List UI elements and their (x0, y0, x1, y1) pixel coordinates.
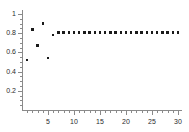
data-point (114, 31, 117, 34)
data-point (57, 31, 60, 34)
data-point (130, 31, 133, 34)
y-tick (18, 72, 22, 73)
y-minor-tick (20, 57, 22, 58)
x-minor-tick (84, 111, 85, 113)
data-point (172, 31, 175, 34)
data-point (125, 31, 128, 34)
x-tick (74, 111, 75, 115)
x-minor-tick (136, 111, 137, 113)
x-tick-label: 5 (38, 118, 58, 126)
x-minor-tick (116, 111, 117, 113)
data-point (156, 31, 159, 34)
data-point (42, 22, 45, 25)
x-minor-tick (79, 111, 80, 113)
x-minor-tick (110, 111, 111, 113)
y-minor-tick (20, 67, 22, 68)
x-tick-label: 30 (168, 118, 188, 126)
data-point (104, 31, 107, 34)
x-minor-tick (157, 111, 158, 113)
x-tick-label: 15 (90, 118, 110, 126)
x-minor-tick (43, 111, 44, 113)
data-point (161, 31, 164, 34)
x-minor-tick (95, 111, 96, 113)
y-tick (18, 91, 22, 92)
y-minor-tick (20, 96, 22, 97)
x-minor-tick (53, 111, 54, 113)
x-minor-tick (69, 111, 70, 113)
x-minor-tick (38, 111, 39, 113)
data-point (109, 31, 112, 34)
y-minor-tick (20, 38, 22, 39)
y-minor-tick (20, 28, 22, 29)
data-point (94, 31, 97, 34)
x-tick (126, 111, 127, 115)
y-tick-label: 1 (0, 10, 16, 18)
scatter-chart: 0.20.40.60.81 51015202530 (0, 0, 189, 132)
data-point (52, 34, 55, 37)
y-tick-label: 0.2 (0, 87, 16, 95)
y-minor-tick (20, 43, 22, 44)
x-minor-tick (131, 111, 132, 113)
x-minor-tick (64, 111, 65, 113)
data-point (31, 28, 34, 31)
y-minor-tick (20, 62, 22, 63)
y-tick-label: 0.4 (0, 68, 16, 76)
x-minor-tick (32, 111, 33, 113)
data-point (140, 31, 143, 34)
x-tick-label: 10 (64, 118, 84, 126)
y-minor-tick (20, 48, 22, 49)
y-minor-tick (20, 100, 22, 101)
y-minor-tick (20, 19, 22, 20)
x-minor-tick (147, 111, 148, 113)
data-point (62, 31, 65, 34)
x-minor-tick (162, 111, 163, 113)
y-minor-tick (20, 76, 22, 77)
data-point (68, 31, 71, 34)
data-point (78, 31, 81, 34)
data-point (177, 31, 180, 34)
data-point (83, 31, 86, 34)
data-point (120, 31, 123, 34)
x-minor-tick (142, 111, 143, 113)
data-point (146, 31, 149, 34)
data-point (99, 31, 102, 34)
x-minor-tick (173, 111, 174, 113)
y-minor-tick (20, 24, 22, 25)
data-point (166, 31, 169, 34)
data-point (73, 31, 76, 34)
y-minor-tick (20, 81, 22, 82)
x-tick (48, 111, 49, 115)
data-point (26, 59, 29, 62)
y-tick (18, 52, 22, 53)
data-point (135, 31, 138, 34)
x-minor-tick (58, 111, 59, 113)
y-tick-label: 0.6 (0, 48, 16, 56)
y-tick-label: 0.8 (0, 29, 16, 37)
x-minor-tick (168, 111, 169, 113)
x-tick (178, 111, 179, 115)
x-minor-tick (90, 111, 91, 113)
data-point (151, 31, 154, 34)
data-point (47, 57, 50, 60)
x-tick (100, 111, 101, 115)
plot-area: 0.20.40.60.81 51015202530 (0, 0, 189, 132)
y-tick (18, 33, 22, 34)
y-tick (18, 14, 22, 15)
x-minor-tick (105, 111, 106, 113)
x-tick-label: 20 (116, 118, 136, 126)
x-minor-tick (27, 111, 28, 113)
x-minor-tick (121, 111, 122, 113)
x-tick (152, 111, 153, 115)
y-minor-tick (20, 105, 22, 106)
x-tick-label: 25 (142, 118, 162, 126)
data-point (36, 44, 39, 47)
y-minor-tick (20, 86, 22, 87)
y-axis-line (22, 10, 23, 111)
data-point (88, 31, 91, 34)
